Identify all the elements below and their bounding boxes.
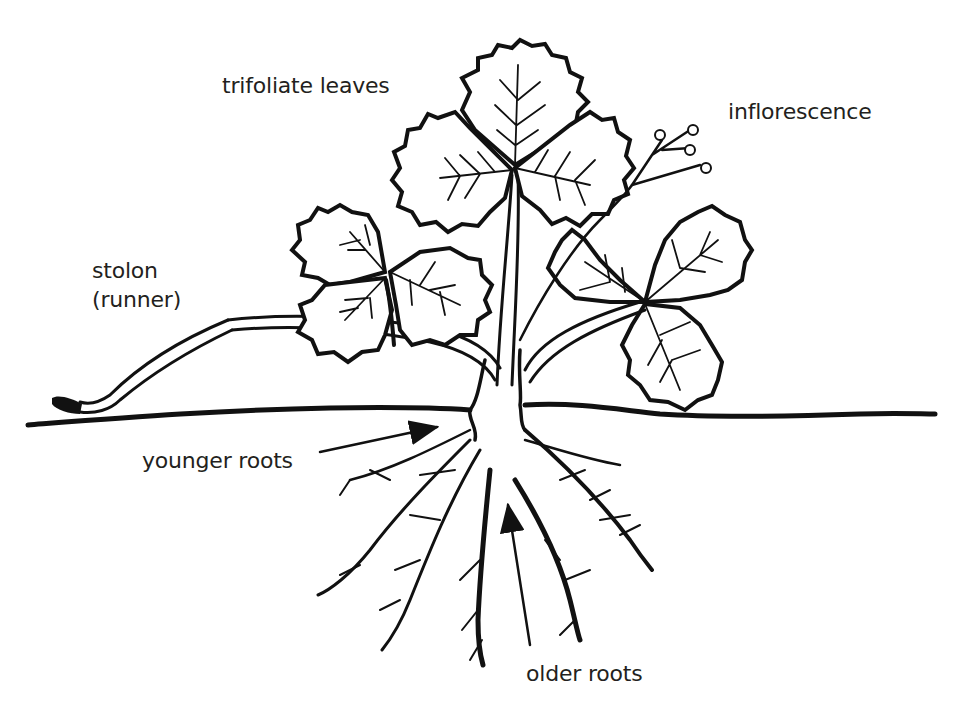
trifoliate-leaf-top [392, 40, 634, 232]
label-runner: (runner) [92, 286, 181, 314]
younger-roots-arrow [320, 427, 437, 452]
central-petiole [497, 175, 518, 385]
strawberry-plant-diagram: trifoliate leaves inflorescence stolon (… [0, 0, 960, 701]
label-trifoliate-leaves: trifoliate leaves [222, 72, 390, 100]
label-stolon: stolon [92, 257, 158, 285]
label-younger-roots: younger roots [142, 447, 293, 475]
roots [318, 430, 652, 665]
trifoliate-leaf-right [548, 206, 752, 410]
soil-line [28, 404, 935, 425]
older-roots-arrow [508, 505, 530, 645]
label-inflorescence: inflorescence [728, 98, 872, 126]
label-older-roots: older roots [526, 660, 642, 688]
annotation-arrows [320, 427, 530, 645]
